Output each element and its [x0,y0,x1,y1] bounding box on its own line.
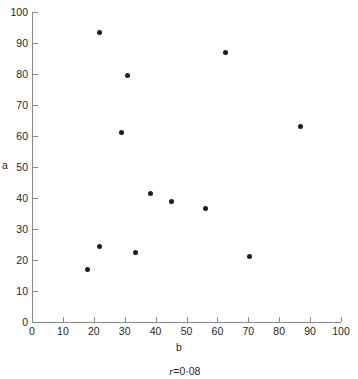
data-point [125,73,130,78]
data-point [85,267,90,272]
data-point [97,30,102,35]
data-point [148,191,153,196]
data-point [169,199,174,204]
data-point [119,130,124,135]
data-point [298,124,303,129]
data-point [97,244,102,249]
data-point [203,206,208,211]
data-point [223,50,228,55]
data-point [247,254,252,259]
data-point [133,250,138,255]
